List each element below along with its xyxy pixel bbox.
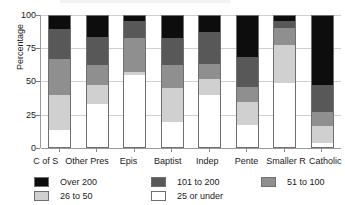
bar-column [41, 15, 79, 148]
bar-segment[interactable] [49, 95, 70, 130]
x-tick-label: Catholic [306, 155, 345, 169]
bar-segment[interactable] [87, 65, 108, 86]
bar-segment[interactable] [312, 143, 333, 147]
legend-label-25-or-under: 25 or under [177, 191, 223, 201]
legend-swatch-icon-101-to-200 [151, 177, 166, 187]
cropped-title-remnant [60, 0, 230, 3]
bar-segment[interactable] [162, 88, 183, 122]
x-axis-ticks [40, 148, 340, 154]
x-tick-mark [284, 148, 285, 152]
bar-segment[interactable] [162, 65, 183, 89]
stacked-bar[interactable] [123, 15, 146, 148]
legend-swatch-icon-over-200 [34, 177, 49, 187]
bar-segment[interactable] [162, 16, 183, 38]
bar-segment[interactable] [162, 122, 183, 147]
bar-segment[interactable] [237, 16, 258, 57]
y-tick-label-75: 75 [10, 44, 36, 53]
bar-segment[interactable] [199, 32, 220, 65]
bar-series-container [41, 15, 341, 148]
bar-column [266, 15, 304, 148]
bar-segment[interactable] [49, 29, 70, 59]
bar-segment[interactable] [199, 95, 220, 147]
bar-segment[interactable] [124, 21, 145, 38]
legend-item-51-to-100[interactable]: 51 to 100 [261, 175, 334, 188]
legend-label-51-to-100: 51 to 100 [287, 177, 325, 187]
stacked-bar-chart: Percentage 100 75 50 25 0 C of SOther Pr… [0, 0, 345, 205]
x-tick-label: Other Pres [65, 155, 109, 169]
legend-row-2: 26 to 50 25 or under [34, 189, 334, 202]
x-tick-label: C of S [26, 155, 65, 169]
x-tick-mark [209, 148, 210, 152]
legend-label-26-to-50: 26 to 50 [60, 191, 93, 201]
legend-item-over-200[interactable]: Over 200 [34, 175, 151, 188]
x-tick-mark [96, 148, 97, 152]
y-tick-label-25: 25 [10, 111, 36, 120]
bar-column [116, 15, 154, 148]
bar-segment[interactable] [237, 57, 258, 87]
x-tick-label: Baptist [148, 155, 187, 169]
bar-segment[interactable] [49, 59, 70, 94]
bar-segment[interactable] [237, 87, 258, 103]
stacked-bar[interactable] [198, 15, 221, 148]
bar-segment[interactable] [312, 85, 333, 111]
bar-segment[interactable] [162, 38, 183, 64]
bar-segment[interactable] [312, 16, 333, 85]
legend-item-101-to-200[interactable]: 101 to 200 [151, 175, 261, 188]
bar-segment[interactable] [199, 16, 220, 32]
bar-segment[interactable] [87, 16, 108, 37]
bar-segment[interactable] [199, 79, 220, 95]
chart-legend: Over 200 101 to 200 51 to 100 26 to 50 2… [34, 175, 334, 203]
stacked-bar[interactable] [161, 15, 184, 148]
bar-segment[interactable] [87, 85, 108, 103]
legend-label-101-to-200: 101 to 200 [177, 177, 220, 187]
x-tick-label: Smaller R [266, 155, 306, 169]
x-tick-mark [134, 148, 135, 152]
stacked-bar[interactable] [273, 15, 296, 148]
legend-item-25-or-under[interactable]: 25 or under [151, 189, 261, 202]
x-tick-mark [171, 148, 172, 152]
bar-segment[interactable] [274, 83, 295, 147]
x-tick-mark [246, 148, 247, 152]
bar-column [304, 15, 342, 148]
stacked-bar[interactable] [236, 15, 259, 148]
bar-column [191, 15, 229, 148]
x-tick-label: Epis [109, 155, 148, 169]
bar-segment[interactable] [312, 112, 333, 126]
y-tick-label-100: 100 [10, 11, 36, 20]
stacked-bar[interactable] [48, 15, 71, 148]
plot-area [40, 15, 341, 148]
bar-segment[interactable] [237, 102, 258, 124]
legend-item-26-to-50[interactable]: 26 to 50 [34, 189, 151, 202]
bar-segment[interactable] [87, 104, 108, 147]
bar-segment[interactable] [274, 45, 295, 83]
x-tick-mark [321, 148, 322, 152]
y-axis-ticks: 100 75 50 25 0 [0, 0, 36, 205]
bar-segment[interactable] [124, 75, 145, 147]
bar-column [229, 15, 267, 148]
legend-swatch-icon-25-or-under [151, 191, 166, 201]
bar-segment[interactable] [274, 28, 295, 45]
legend-label-over-200: Over 200 [60, 177, 97, 187]
bar-segment[interactable] [87, 37, 108, 65]
bar-segment[interactable] [124, 38, 145, 72]
legend-swatch-icon-51-to-100 [261, 177, 276, 187]
bar-segment[interactable] [49, 130, 70, 147]
legend-row-1: Over 200 101 to 200 51 to 100 [34, 175, 334, 188]
y-tick-label-50: 50 [10, 77, 36, 86]
bar-segment[interactable] [199, 64, 220, 78]
x-tick-label: Indep [188, 155, 227, 169]
bar-segment[interactable] [312, 126, 333, 143]
y-tick-label-0: 0 [10, 144, 36, 153]
x-axis-labels: C of SOther PresEpisBaptistIndepPenteSma… [26, 155, 345, 169]
stacked-bar[interactable] [86, 15, 109, 148]
bar-segment[interactable] [237, 125, 258, 147]
bar-segment[interactable] [49, 16, 70, 29]
x-tick-label: Pente [227, 155, 266, 169]
bar-column [154, 15, 192, 148]
bar-column [79, 15, 117, 148]
legend-swatch-icon-26-to-50 [34, 191, 49, 201]
x-tick-mark [59, 148, 60, 152]
stacked-bar[interactable] [311, 15, 334, 148]
